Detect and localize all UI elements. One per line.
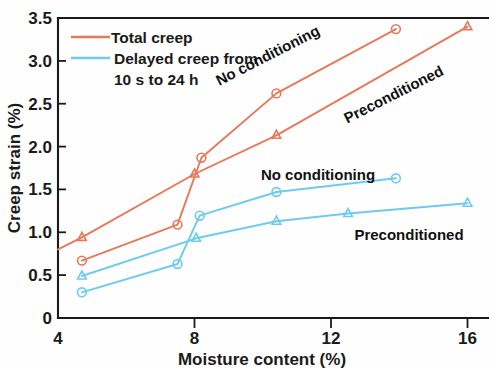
y-tick-label-3_5: 3.5 (28, 9, 52, 28)
annotation-orange-preconditioned: Preconditioned (341, 62, 446, 127)
y-tick-label-3_0: 3.0 (28, 52, 52, 71)
x-axis-title: Moisture content (%) (178, 350, 346, 368)
line-delayed-creep-no-conditioning (82, 178, 396, 292)
legend-label-total-creep: Total creep (111, 29, 193, 46)
x-tick-label-16: 16 (458, 329, 477, 348)
y-tick-label-2_0: 2.0 (28, 138, 52, 157)
x-axis-tick-labels: 4 8 12 16 (53, 329, 477, 348)
y-tick-label-2_5: 2.5 (28, 95, 52, 114)
annotation-blue-preconditioned: Preconditioned (354, 226, 463, 243)
x-tick-label-4: 4 (53, 329, 63, 348)
y-axis-tick-labels: 0 0.5 1.0 1.5 2.0 2.5 3.0 3.5 (28, 9, 52, 328)
marker-triangle (344, 209, 353, 217)
marker-triangle (272, 216, 281, 224)
plot-annotations: No conditioning Preconditioned No condit… (213, 22, 464, 243)
chart-figure: 0 0.5 1.0 1.5 2.0 2.5 3.0 3.5 4 8 12 16 … (0, 0, 492, 368)
y-axis-ticks (58, 18, 66, 318)
marker-triangle (192, 233, 201, 241)
y-axis-title: Creep strain (%) (5, 103, 24, 233)
x-tick-label-8: 8 (190, 329, 199, 348)
y-tick-label-0: 0 (43, 309, 52, 328)
chart-svg: 0 0.5 1.0 1.5 2.0 2.5 3.0 3.5 4 8 12 16 … (0, 0, 492, 368)
legend-label-delayed-creep-line2: 10 s to 24 h (114, 71, 198, 88)
series-delayed-creep-no-conditioning (78, 174, 401, 297)
y-tick-label-0_5: 0.5 (28, 266, 52, 285)
x-axis-ticks (58, 318, 468, 328)
x-tick-label-12: 12 (322, 329, 341, 348)
y-tick-label-1_5: 1.5 (28, 180, 52, 199)
marker-triangle (463, 198, 472, 206)
marker-triangle (463, 22, 472, 30)
annotation-blue-no-conditioning: No conditioning (261, 166, 375, 183)
y-tick-label-1_0: 1.0 (28, 223, 52, 242)
